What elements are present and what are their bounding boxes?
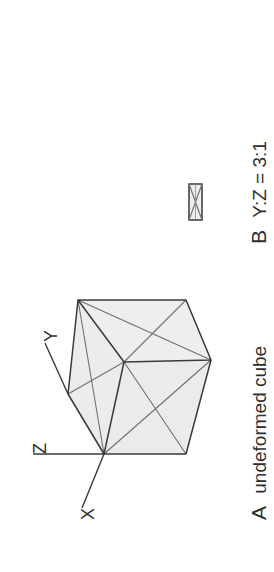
x-axis-line — [82, 454, 104, 508]
panel-b-caption: B Y:Z = 3:1 — [248, 141, 269, 244]
axis-label-x: X — [79, 508, 97, 520]
figure-root: Z X Y A undeformed cube — [0, 0, 274, 572]
panel-b-graphic — [0, 0, 274, 276]
panel-a-letter: A — [247, 506, 270, 520]
flattened-cube-shape — [189, 184, 202, 220]
y-axis-line — [45, 343, 68, 394]
panel-b-caption-text: Y:Z = 3:1 — [249, 141, 270, 218]
axis-label-z: Z — [31, 443, 49, 454]
panel-b-letter: B — [247, 230, 270, 244]
axis-label-y: Y — [42, 330, 60, 342]
panel-a-caption: A undeformed cube — [248, 346, 269, 520]
panel-b-deformed-cube: B Y:Z = 3:1 — [0, 0, 274, 276]
panel-a-graphic — [0, 276, 274, 572]
panel-a-undeformed-cube: Z X Y A undeformed cube — [0, 276, 274, 572]
panel-a-caption-text: undeformed cube — [249, 346, 270, 494]
